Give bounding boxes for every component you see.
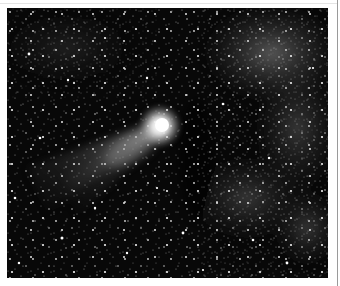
- page-border-top: [0, 3, 338, 4]
- page-border-right: [337, 0, 338, 286]
- starfield-canvas: [7, 8, 328, 278]
- comet-photograph: [7, 8, 328, 278]
- comet-head: [138, 104, 182, 148]
